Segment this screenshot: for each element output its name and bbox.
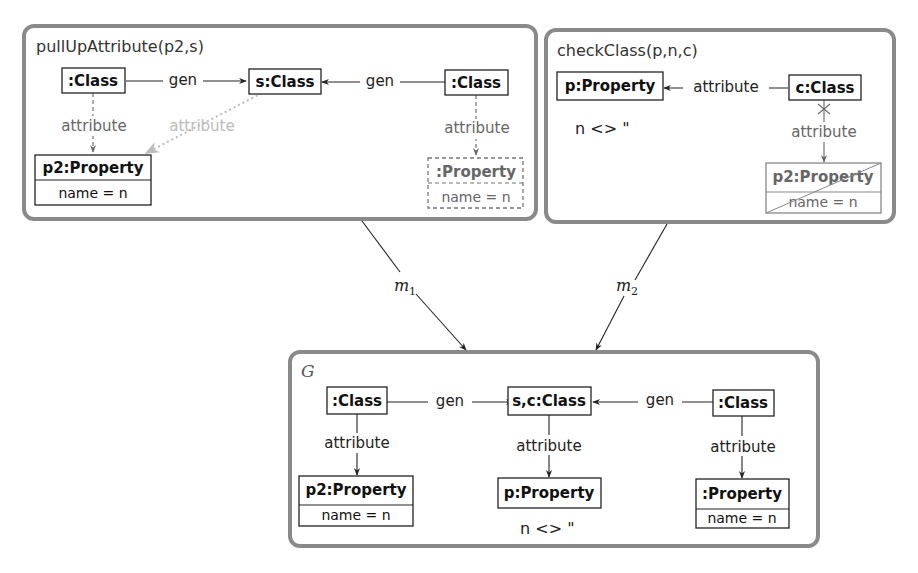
edge-label-gen: gen xyxy=(366,72,394,90)
edge-label-gen: gen xyxy=(436,392,464,410)
node-sc-class: s,c:Class xyxy=(508,387,591,415)
svg-text::Property: :Property xyxy=(702,485,782,503)
svg-text:p2:Property: p2:Property xyxy=(305,481,406,499)
panel-title: pullUpAttribute(p2,s) xyxy=(36,37,204,56)
edge-label-attribute: attribute xyxy=(516,437,581,455)
node-p2-property-forbidden: p2:Property name = n xyxy=(766,163,881,213)
svg-text::Class: :Class xyxy=(718,394,768,412)
svg-text::Class: :Class xyxy=(332,392,382,410)
svg-text::Class: :Class xyxy=(68,72,118,90)
node-class: :Class xyxy=(713,390,774,416)
svg-text::Property: :Property xyxy=(436,163,516,181)
svg-text:p2:Property: p2:Property xyxy=(42,159,143,177)
edge-label-attribute: attribute xyxy=(791,123,856,141)
svg-text:s:Class: s:Class xyxy=(255,73,314,91)
edge-label-attribute: attribute xyxy=(61,117,126,135)
edge-label-attribute: attribute xyxy=(444,119,509,137)
svg-text:s,c:Class: s,c:Class xyxy=(512,392,586,410)
svg-text:p:Property: p:Property xyxy=(565,77,656,95)
node-class: :Class xyxy=(445,70,508,95)
edge-label-attribute: attribute xyxy=(710,438,775,456)
morphism-label: m2 xyxy=(616,276,638,298)
panel-g: G gen gen attribute attribute attribute … xyxy=(290,352,818,546)
svg-text:p:Property: p:Property xyxy=(504,484,595,502)
morphism-m1: m1 xyxy=(362,221,466,350)
svg-text:name = n: name = n xyxy=(58,185,127,201)
svg-text:name = n: name = n xyxy=(321,507,390,523)
node-p-property: p:Property xyxy=(557,72,663,100)
edge-label-attribute: attribute xyxy=(169,117,234,135)
edge-label-attribute: attribute xyxy=(324,434,389,452)
edge-label-gen: gen xyxy=(646,391,674,409)
condition-text: n <> " xyxy=(575,119,629,138)
condition-text: n <> " xyxy=(520,519,574,538)
node-p-property: p:Property xyxy=(498,478,601,508)
svg-text::Class: :Class xyxy=(451,74,501,92)
panel-checkclass: checkClass(p,n,c) attribute attribute p:… xyxy=(546,30,894,222)
node-p2-property: p2:Property name = n xyxy=(299,476,413,526)
node-property: :Property name = n xyxy=(696,479,789,528)
morphism-arrow xyxy=(596,296,624,350)
edge-label-gen: gen xyxy=(169,71,197,89)
svg-text:name = n: name = n xyxy=(441,189,510,205)
edge-label-attribute: attribute xyxy=(693,78,758,96)
svg-text:name = n: name = n xyxy=(788,194,857,210)
node-class: :Class xyxy=(62,68,125,93)
panel-title: G xyxy=(301,361,315,381)
morphism-label: m1 xyxy=(394,276,416,298)
node-s-class: s:Class xyxy=(249,69,321,94)
svg-text:c:Class: c:Class xyxy=(795,79,854,97)
node-property-nac: :Property name = n xyxy=(428,158,523,208)
panel-pullupattribute: pullUpAttribute(p2,s) gen gen attribute … xyxy=(24,26,536,219)
diagram-canvas: pullUpAttribute(p2,s) gen gen attribute … xyxy=(0,0,918,573)
svg-text:name = n: name = n xyxy=(707,510,776,526)
svg-text:p2:Property: p2:Property xyxy=(772,168,873,186)
panel-title: checkClass(p,n,c) xyxy=(557,41,698,60)
morphism-m2: m2 xyxy=(596,224,667,350)
morphism-arrow xyxy=(416,294,466,350)
node-c-class: c:Class xyxy=(789,75,861,100)
node-class: :Class xyxy=(327,387,387,414)
node-p2-property: p2:Property name = n xyxy=(35,155,151,205)
